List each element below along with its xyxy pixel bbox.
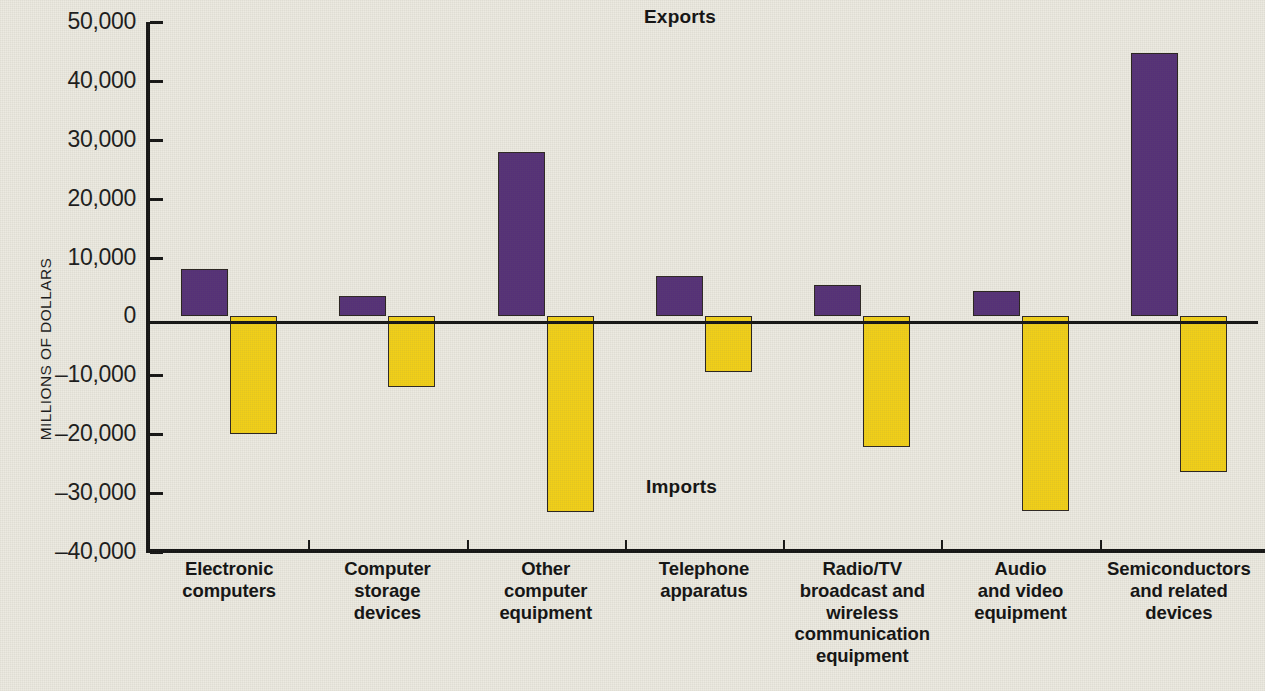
bar-exports <box>656 276 703 316</box>
y-axis-tick-label: –20,000 <box>0 422 136 445</box>
x-axis-category-label: Audioand videoequipment <box>929 558 1111 623</box>
x-axis-category-label-line: equipment <box>455 602 637 624</box>
x-axis-category-label: Computerstoragedevices <box>296 558 478 623</box>
bar-exports <box>973 291 1020 316</box>
bar-chart: MILLIONS OF DOLLARS 50,00040,00030,00020… <box>0 0 1265 691</box>
bar-group <box>783 22 941 552</box>
x-axis-category-label: Semiconductorsand relateddevices <box>1088 558 1265 623</box>
y-axis-tick-label: –10,000 <box>0 363 136 386</box>
bar-imports <box>1180 316 1227 471</box>
x-axis-separator-tick <box>941 540 943 551</box>
plot-area <box>150 22 1258 552</box>
x-axis-category-label-line: and related <box>1088 580 1265 602</box>
bar-group <box>308 22 466 552</box>
bar-imports <box>388 316 435 386</box>
x-axis-category-labels: ElectroniccomputersComputerstoragedevice… <box>150 558 1265 691</box>
bar-group <box>941 22 1099 552</box>
x-axis-category-label-line: storage <box>296 580 478 602</box>
x-axis-category-label-line: equipment <box>929 602 1111 624</box>
y-axis-tick-label: 50,000 <box>0 10 136 33</box>
x-axis-category-label-line: equipment <box>771 645 953 667</box>
x-axis-category-label-line: Electronic <box>138 558 320 580</box>
x-axis-category-label-line: Audio <box>929 558 1111 580</box>
y-axis-tick-label: 0 <box>0 304 136 327</box>
bar-exports <box>814 285 861 316</box>
bar-group <box>1100 22 1258 552</box>
x-axis-category-label-line: and video <box>929 580 1111 602</box>
bar-imports <box>705 316 752 371</box>
x-axis-separator-tick <box>308 540 310 551</box>
y-axis-tick-label: 40,000 <box>0 69 136 92</box>
x-axis-category-label-line: Telephone <box>613 558 795 580</box>
y-axis-tick-label: 30,000 <box>0 128 136 151</box>
x-axis-category-label-line: broadcast and <box>771 580 953 602</box>
bar-imports <box>863 316 910 446</box>
bar-group <box>150 22 308 552</box>
x-axis-separator-tick <box>625 540 627 551</box>
x-axis-category-label-line: wireless <box>771 602 953 624</box>
x-axis-category-label-line: computers <box>138 580 320 602</box>
bar-group <box>625 22 783 552</box>
x-axis-category-label-line: devices <box>296 602 478 624</box>
x-axis-category-label-line: apparatus <box>613 580 795 602</box>
bar-imports <box>547 316 594 512</box>
y-axis-tick-label: –40,000 <box>0 540 136 563</box>
x-axis-category-label: Electroniccomputers <box>138 558 320 602</box>
bar-exports <box>1131 53 1178 316</box>
x-axis-category-label: Radio/TVbroadcast andwirelesscommunicati… <box>771 558 953 667</box>
bar-imports <box>1022 316 1069 511</box>
bar-group <box>467 22 625 552</box>
y-axis-tick-label: –30,000 <box>0 481 136 504</box>
x-axis-category-label-line: Other <box>455 558 637 580</box>
bar-exports <box>498 152 545 316</box>
x-axis-separator-tick <box>1100 540 1102 551</box>
x-axis-category-label: Othercomputerequipment <box>455 558 637 623</box>
bar-exports <box>339 296 386 316</box>
x-axis-separator-tick <box>783 540 785 551</box>
x-axis-category-label: Telephoneapparatus <box>613 558 795 602</box>
bar-exports <box>181 269 228 317</box>
x-axis-line <box>146 549 1265 553</box>
x-axis-category-label-line: Radio/TV <box>771 558 953 580</box>
y-axis-tick-label: 20,000 <box>0 187 136 210</box>
exports-annotation: Exports <box>644 6 716 28</box>
x-axis-category-label-line: devices <box>1088 602 1265 624</box>
x-axis-category-label-line: Semiconductors <box>1088 558 1265 580</box>
x-axis-category-label-line: Computer <box>296 558 478 580</box>
bar-imports <box>230 316 277 433</box>
x-axis-category-label-line: communication <box>771 623 953 645</box>
zero-baseline <box>146 321 1258 324</box>
y-axis-tick-label: 10,000 <box>0 246 136 269</box>
x-axis-separator-tick <box>467 540 469 551</box>
imports-annotation: Imports <box>646 476 717 498</box>
x-axis-category-label-line: computer <box>455 580 637 602</box>
